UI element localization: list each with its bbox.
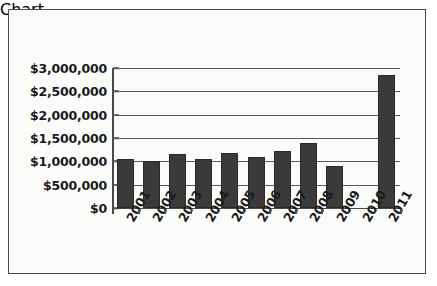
chart-frame: $0$500,000$1,000,000$1,500,000$2,000,000… [8,9,426,274]
y-axis-tick-label: $2,000,000 [30,107,107,122]
y-axis-tick-label: $1,000,000 [30,154,107,169]
gridline [112,138,400,139]
y-axis-tick-label: $500,000 [43,177,107,192]
y-axis-labels: $0$500,000$1,000,000$1,500,000$2,000,000… [15,61,107,211]
gridline [112,68,400,69]
x-axis-tick-mark [295,209,297,214]
x-axis-tick-mark [191,209,193,214]
x-axis-tick-mark [164,209,166,214]
x-axis-tick-mark [112,209,114,214]
x-axis-tick-mark [400,209,402,214]
x-axis-tick-mark [217,209,219,214]
plot-area [112,61,400,208]
x-axis-tick-mark [243,209,245,214]
x-axis-labels: 2001200220032004200520062007200820092010… [112,209,401,269]
bar [378,75,395,208]
x-axis-tick-mark [348,209,350,214]
x-axis-tick-mark [138,209,140,214]
y-axis-tick-label: $3,000,000 [30,61,107,76]
y-axis-tick-label: $0 [90,201,107,216]
x-axis-tick-mark [321,209,323,214]
y-axis-tick-label: $2,500,000 [30,84,107,99]
y-axis-tick-label: $1,500,000 [30,131,107,146]
gridline [112,115,400,116]
x-axis-tick-mark [269,209,271,214]
gridline [112,91,400,92]
x-axis-tick-mark [374,209,376,214]
